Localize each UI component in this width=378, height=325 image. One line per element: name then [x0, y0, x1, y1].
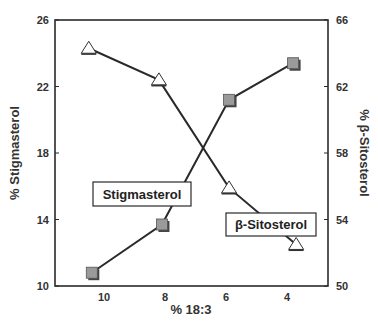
x-tick-label: 8	[162, 291, 168, 303]
y-left-tick-label: 14	[37, 214, 50, 226]
y-left-tick-label: 22	[37, 81, 49, 93]
square-marker	[156, 219, 167, 230]
triangle-marker	[151, 73, 166, 85]
y-right-tick-label: 66	[336, 14, 348, 26]
y-right-tick-label: 58	[336, 147, 348, 159]
square-marker	[86, 267, 97, 278]
plot-border	[55, 20, 328, 286]
y-left-axis-title: % Stigmasterol	[7, 106, 22, 200]
y-right-tick-label: 54	[336, 214, 349, 226]
callout-sitosterol: β-Sitosterol	[226, 213, 316, 236]
axis-ticks: 1014182226505458626610864	[37, 14, 349, 303]
callout-stigmasterol: Stigmasterol	[93, 182, 191, 206]
x-tick-label: 10	[98, 291, 110, 303]
series-lines	[89, 48, 296, 272]
x-axis-title: % 18:3	[170, 302, 211, 317]
y-right-tick-label: 50	[336, 280, 348, 292]
y-right-axis-title: % β-Sitosterol	[357, 109, 372, 196]
square-marker	[288, 58, 299, 69]
square-marker	[224, 94, 235, 105]
series-line-0	[92, 63, 293, 272]
plot-frame	[55, 20, 328, 286]
y-left-tick-label: 18	[37, 147, 49, 159]
triangle-marker	[222, 181, 237, 193]
y-left-tick-label: 26	[37, 14, 49, 26]
triangle-marker	[81, 41, 96, 53]
y-left-tick-label: 10	[37, 280, 49, 292]
x-tick-label: 6	[223, 291, 229, 303]
chart: 1014182226505458626610864 Stigmasterol β…	[0, 0, 378, 325]
callout-label: β-Sitosterol	[235, 217, 307, 232]
y-right-tick-label: 62	[336, 81, 348, 93]
x-tick-label: 4	[284, 291, 291, 303]
callout-label: Stigmasterol	[103, 187, 182, 202]
